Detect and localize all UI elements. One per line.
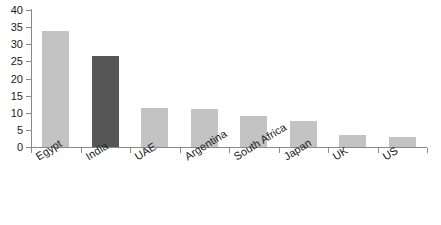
y-axis-tick-label: 20	[11, 73, 23, 84]
y-axis-tick-label: 35	[11, 22, 23, 33]
x-axis-tick	[328, 148, 329, 153]
bar-egypt	[42, 31, 69, 147]
bar-india	[92, 56, 119, 147]
x-axis-tick	[279, 148, 280, 153]
y-axis-tick-label: 15	[11, 90, 23, 101]
x-axis-tick-end	[427, 148, 428, 153]
y-axis-tick-label: 25	[11, 56, 23, 67]
bar-chart: 0510152025303540 EgyptIndiaUAEArgentinaS…	[0, 0, 441, 225]
x-axis-tick	[378, 148, 379, 153]
x-axis-tick	[31, 148, 32, 153]
y-axis-tick-label: 40	[11, 5, 23, 16]
y-axis-tick-label: 0	[17, 142, 23, 153]
y-axis-tick-label: 5	[17, 124, 23, 135]
x-axis-tick	[81, 148, 82, 153]
bar-uae	[141, 108, 168, 147]
y-axis-tick-label: 30	[11, 39, 23, 50]
plot-area	[31, 10, 427, 147]
x-axis-tick	[180, 148, 181, 153]
x-axis-tick	[130, 148, 131, 153]
x-axis-tick	[229, 148, 230, 153]
y-axis-tick-label: 10	[11, 107, 23, 118]
